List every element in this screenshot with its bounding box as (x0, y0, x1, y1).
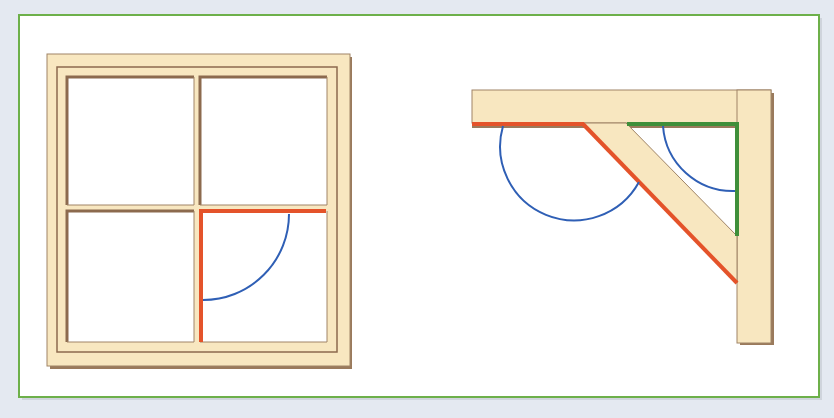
window-frame (47, 54, 352, 369)
diagram-stage (0, 0, 834, 418)
